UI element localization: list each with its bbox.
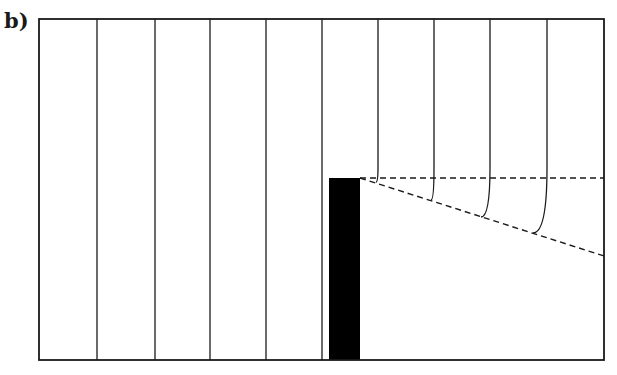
curved-streamline	[431, 19, 434, 200]
curved-streamline	[481, 19, 490, 217]
curved-streamline	[376, 19, 378, 182]
curved-streamline	[533, 19, 547, 233]
flow-diagram	[0, 0, 617, 375]
obstacle-block	[329, 178, 360, 360]
